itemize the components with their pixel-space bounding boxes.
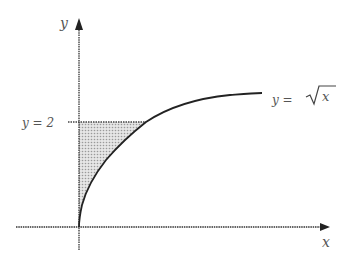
radical-icon bbox=[306, 86, 336, 104]
diagram-canvas: y x y = 2 y = x bbox=[0, 0, 352, 265]
shaded-region bbox=[79, 122, 146, 227]
y-equals-2-label: y = 2 bbox=[21, 116, 54, 130]
curve-label-lhs: y = bbox=[271, 93, 296, 107]
sqrt-curve bbox=[79, 93, 262, 227]
x-axis-label: x bbox=[322, 234, 330, 250]
curve-label: y = x bbox=[271, 86, 336, 107]
y-axis-arrow-icon bbox=[75, 18, 83, 30]
x-axis-arrow-icon bbox=[320, 223, 330, 231]
y-axis-label: y bbox=[59, 15, 69, 31]
curve-label-radicand: x bbox=[322, 89, 330, 104]
